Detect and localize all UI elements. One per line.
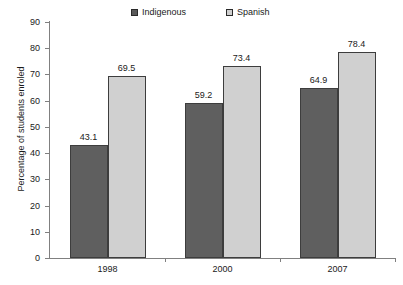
- y-tick-mark: [45, 48, 49, 49]
- y-tick-label: 70: [20, 70, 40, 79]
- bar-value-label: 69.5: [107, 63, 147, 73]
- y-tick-mark: [45, 153, 49, 154]
- bar-2000-spanish[interactable]: [223, 66, 261, 258]
- y-tick-mark: [45, 127, 49, 128]
- x-tick-label: 1998: [78, 264, 138, 275]
- y-tick-label: 20: [20, 202, 40, 211]
- bar-value-label: 73.4: [222, 53, 262, 63]
- bar-1998-indigenous[interactable]: [70, 145, 108, 258]
- y-tick-mark: [45, 232, 49, 233]
- bar-value-label: 43.1: [69, 132, 109, 142]
- x-tick-label: 2007: [308, 264, 368, 275]
- legend-label-spanish: Spanish: [237, 8, 270, 17]
- x-axis-line: [49, 258, 396, 259]
- bar-2007-indigenous[interactable]: [300, 88, 338, 258]
- bar-value-label: 59.2: [184, 90, 224, 100]
- bar-1998-spanish[interactable]: [108, 76, 146, 258]
- y-tick-mark: [45, 206, 49, 207]
- y-tick-mark: [45, 179, 49, 180]
- y-tick-label: 30: [20, 175, 40, 184]
- bar-chart: Indigenous Spanish Percentage of student…: [0, 0, 403, 285]
- legend-label-indigenous: Indigenous: [142, 8, 186, 17]
- y-tick-label: 60: [20, 97, 40, 106]
- y-tick-mark: [45, 258, 49, 259]
- y-tick-mark: [45, 22, 49, 23]
- bar-2007-spanish[interactable]: [338, 52, 376, 258]
- x-tick-mark: [395, 258, 396, 262]
- y-tick-mark: [45, 101, 49, 102]
- y-tick-label: 10: [20, 228, 40, 237]
- legend-swatch-icon-indigenous: [131, 9, 138, 16]
- x-tick-label: 2000: [193, 264, 253, 275]
- y-tick-label: 80: [20, 44, 40, 53]
- bar-value-label: 64.9: [299, 75, 339, 85]
- bar-2000-indigenous[interactable]: [185, 103, 223, 258]
- chart-legend: Indigenous Spanish: [131, 8, 270, 17]
- y-tick-label: 0: [20, 254, 40, 263]
- legend-swatch-icon-spanish: [226, 9, 233, 16]
- x-tick-mark: [280, 258, 281, 262]
- y-tick-label: 90: [20, 18, 40, 27]
- legend-item-spanish[interactable]: Spanish: [226, 8, 270, 17]
- bar-value-label: 78.4: [337, 39, 377, 49]
- y-tick-label: 50: [20, 123, 40, 132]
- x-tick-mark: [165, 258, 166, 262]
- legend-item-indigenous[interactable]: Indigenous: [131, 8, 186, 17]
- y-tick-mark: [45, 74, 49, 75]
- y-tick-label: 40: [20, 149, 40, 158]
